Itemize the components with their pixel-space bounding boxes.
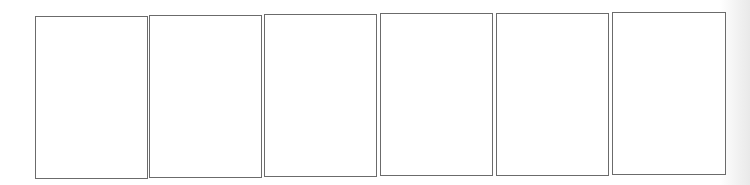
panel-6-content: [613, 13, 614, 14]
panel-3: [264, 14, 377, 177]
panel-4-content: [381, 14, 382, 15]
panel-5: [496, 13, 609, 176]
panel-1-content: [36, 17, 37, 18]
panel-5-content: [497, 14, 498, 15]
panel-4: [380, 13, 493, 176]
panel-2: [149, 15, 262, 178]
panel-1: [35, 16, 148, 179]
panel-6: [612, 12, 726, 175]
panel-sheet: [0, 0, 750, 185]
panel-2-content: [150, 16, 151, 17]
panel-3-content: [265, 15, 266, 16]
